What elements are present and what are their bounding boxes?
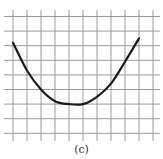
figure-caption: (c) — [0, 143, 163, 156]
u-shaped-curve — [13, 38, 139, 104]
chart-figure — [0, 0, 163, 159]
grid-lines — [4, 10, 163, 141]
